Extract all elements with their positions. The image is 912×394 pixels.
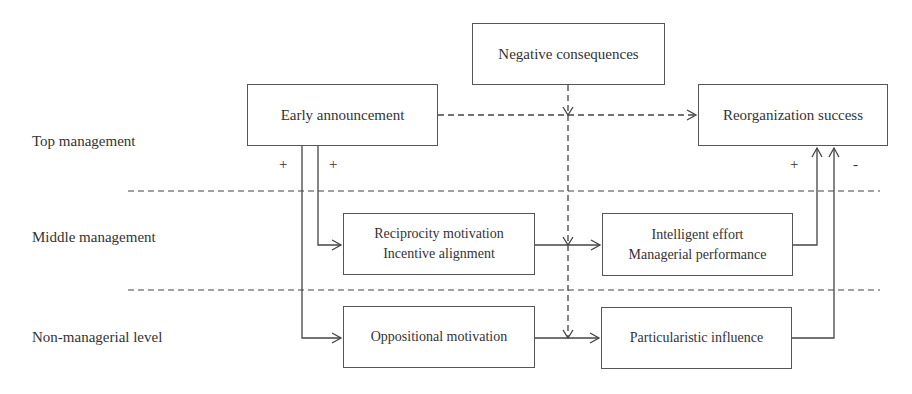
node-label: Oppositional motivation [371, 327, 508, 347]
node-label-line2: Managerial performance [629, 245, 767, 265]
node-label-line2: Incentive alignment [383, 244, 495, 264]
node-particularistic-influence: Particularistic influence [601, 307, 792, 369]
node-reorganization-success: Reorganization success [698, 84, 888, 146]
node-label: Reorganization success [723, 105, 863, 125]
sign-particularistic-to-success: - [853, 156, 858, 173]
node-label-line1: Reciprocity motivation [374, 224, 503, 244]
level-label-top: Top management [32, 133, 136, 150]
diagram-canvas: Top management Middle management Non-man… [0, 0, 912, 394]
node-negative-consequences: Negative consequences [472, 23, 665, 85]
node-intelligent-effort: Intelligent effort Managerial performanc… [602, 213, 793, 276]
arrow-early-to-oppositional [302, 146, 341, 338]
arrow-particularistic-to-success [792, 148, 834, 338]
node-oppositional-motivation: Oppositional motivation [343, 306, 535, 368]
node-label: Early announcement [281, 105, 405, 125]
node-label: Negative consequences [498, 44, 638, 64]
node-label: Particularistic influence [630, 328, 763, 348]
level-label-middle: Middle management [32, 229, 156, 246]
sign-intelligent-to-success: + [790, 156, 798, 173]
node-early-announcement: Early announcement [247, 84, 438, 146]
node-label-line1: Intelligent effort [652, 225, 744, 245]
node-reciprocity-motivation: Reciprocity motivation Incentive alignme… [343, 213, 535, 275]
sign-early-to-middle: + [329, 156, 337, 173]
level-label-non-managerial: Non-managerial level [32, 329, 162, 346]
sign-early-to-nonmanagerial: + [279, 156, 287, 173]
